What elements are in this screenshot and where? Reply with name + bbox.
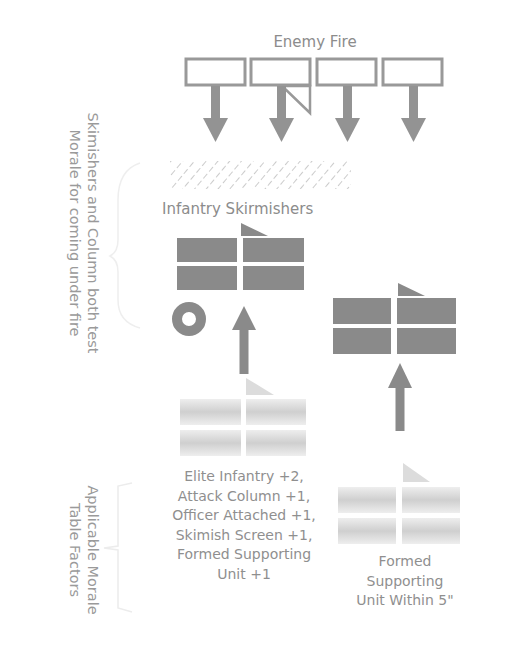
supporting-advance-arrow bbox=[388, 363, 412, 431]
fire-arrows bbox=[203, 86, 426, 142]
column-start-position bbox=[180, 378, 306, 456]
enemy-fire-title: Enemy Fire bbox=[230, 33, 400, 51]
supporting-label-line-3: Unit Within 5" bbox=[345, 591, 465, 611]
enemy-unit-box-1 bbox=[186, 59, 245, 85]
fire-arrow-1 bbox=[203, 86, 228, 142]
enemy-unit-box-2 bbox=[251, 59, 310, 85]
skirmish-screen-hatch bbox=[170, 161, 351, 189]
enemy-fire-units bbox=[186, 59, 442, 113]
factor-skirmish-screen: Skimish Screen +1, bbox=[160, 526, 328, 546]
side-note-line-4: Table Factors bbox=[66, 470, 84, 630]
fire-arrow-4 bbox=[401, 86, 426, 142]
fire-arrow-3 bbox=[335, 86, 360, 142]
column-flag bbox=[241, 223, 268, 236]
bracket-bottom bbox=[104, 483, 132, 612]
supporting-unit bbox=[333, 283, 456, 354]
attack-column-unit bbox=[177, 223, 304, 290]
skirmishers-label: Infantry Skirmishers bbox=[162, 200, 342, 218]
side-note-morale-test: Skimishers and Column both test Morale f… bbox=[66, 88, 102, 378]
supporting-start-position bbox=[338, 463, 460, 544]
side-note-line-1: Skimishers and Column both test bbox=[84, 88, 102, 378]
officer-marker-ring bbox=[177, 307, 201, 331]
supporting-unit-label: Formed Supporting Unit Within 5" bbox=[345, 552, 465, 611]
factor-formed-supporting: Formed Supporting bbox=[160, 545, 328, 565]
side-note-line-2: Morale for coming under fire bbox=[66, 88, 84, 378]
factor-unit: Unit +1 bbox=[160, 565, 328, 585]
supporting-label-line-2: Supporting bbox=[345, 572, 465, 592]
column-advance-arrow bbox=[232, 306, 256, 374]
enemy-unit-box-4 bbox=[383, 59, 442, 85]
supporting-flag bbox=[398, 283, 425, 296]
factor-attack-column: Attack Column +1, bbox=[160, 487, 328, 507]
enemy-officer-flag bbox=[282, 86, 310, 113]
morale-factors-list: Elite Infantry +2, Attack Column +1, Off… bbox=[160, 467, 328, 584]
side-note-line-3: Applicable Morale bbox=[84, 470, 102, 630]
side-note-table-factors: Applicable Morale Table Factors bbox=[66, 470, 102, 630]
bracket-top bbox=[110, 163, 140, 328]
enemy-unit-box-3 bbox=[317, 59, 376, 85]
supporting-label-line-1: Formed bbox=[345, 552, 465, 572]
factor-officer-attached: Officer Attached +1, bbox=[160, 506, 328, 526]
factor-elite-infantry: Elite Infantry +2, bbox=[160, 467, 328, 487]
